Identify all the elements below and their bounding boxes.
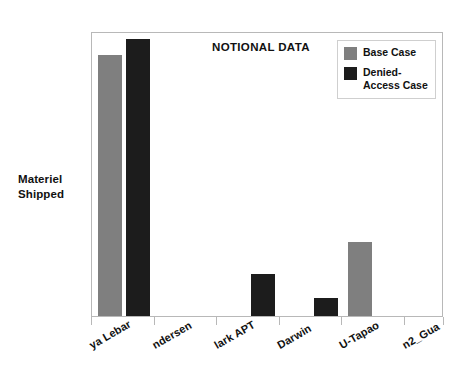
y-axis-title-line1: Materiel	[18, 172, 88, 187]
legend-label-base-case-line1: Base Case	[363, 46, 416, 59]
bar-u-tapao-base-case	[348, 242, 372, 316]
bar-paya-lebar-base-case	[98, 55, 122, 316]
legend-swatch-base-case	[344, 47, 357, 60]
legend-item-base-case: Base Case	[344, 46, 428, 60]
x-axis-label-hmn2-gua: n2_Gua	[400, 320, 441, 351]
x-axis-tick-5	[404, 317, 405, 325]
y-axis-title-line2: Shipped	[18, 187, 88, 202]
x-axis-label-darwin: Darwin	[275, 322, 313, 351]
bar-clark-apt-denied-access-case	[251, 274, 275, 316]
x-axis-ticks	[91, 317, 444, 325]
bar-chart-figure: Materiel Shipped NOTIONAL DATA Base Case…	[0, 0, 469, 367]
legend-swatch-denied-access-case	[344, 67, 357, 80]
legend-label-denied-access-case-line2: Access Case	[363, 79, 428, 92]
legend-label-denied-access-case-line1: Denied-	[363, 66, 428, 79]
plot-area: NOTIONAL DATA Base Case Denied- Access C…	[91, 32, 443, 317]
x-axis-tick-2	[216, 317, 217, 325]
legend-item-denied-access-case: Denied- Access Case	[344, 66, 428, 92]
legend-label-denied-access-case: Denied- Access Case	[363, 66, 428, 92]
legend-label-base-case: Base Case	[363, 46, 416, 59]
x-axis-tick-6	[443, 317, 444, 325]
bar-darwin-denied-access-case	[314, 298, 338, 316]
chart-legend: Base Case Denied- Access Case	[337, 40, 436, 99]
bar-paya-lebar-denied-access-case	[126, 39, 150, 316]
x-axis-tick-0	[91, 317, 92, 325]
x-axis-tick-4	[341, 317, 342, 325]
x-axis-tick-1	[154, 317, 155, 325]
chart-title: NOTIONAL DATA	[212, 41, 310, 53]
y-axis-title: Materiel Shipped	[18, 172, 88, 202]
x-axis-labels: ya Lebarndersenlark APTDarwinU-Tapaon2_G…	[0, 325, 469, 367]
x-axis-tick-3	[279, 317, 280, 325]
